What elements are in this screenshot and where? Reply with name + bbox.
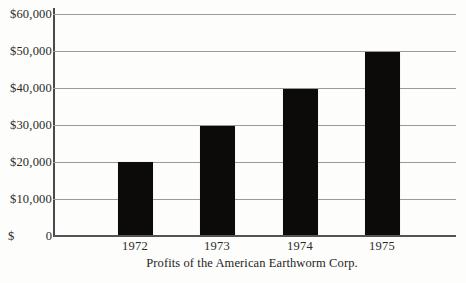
bar-1972 <box>118 162 153 235</box>
chart-caption: Profits of the American Earthworm Corp. <box>0 256 466 271</box>
x-axis-tick-label-1974: 1974 <box>265 239 335 254</box>
y-axis-tick-label-30000: $30,000 <box>0 118 52 133</box>
y-axis-tick-label-40000: $40,000 <box>0 81 52 96</box>
y-axis-tick-label-60000: $60,000 <box>0 7 52 22</box>
chart-caption-text: Profits of the American Earthworm Corp. <box>146 256 358 270</box>
y-axis-tick-label-0: 0 <box>12 229 52 244</box>
plot-area <box>53 14 456 236</box>
x-axis-line <box>53 235 456 237</box>
x-axis-tick-label-1975: 1975 <box>347 239 417 254</box>
x-axis-tick-label-1973: 1973 <box>182 239 252 254</box>
bar-1974 <box>283 89 318 235</box>
y-axis-tick-label-20000: $20,000 <box>0 155 52 170</box>
y-axis-tick-label-50000: $50,000 <box>0 44 52 59</box>
x-axis-tick-label-1972: 1972 <box>100 239 170 254</box>
gridline-60000 <box>53 14 456 15</box>
bar-1975 <box>365 52 400 235</box>
bar-1973 <box>200 126 235 235</box>
y-axis-tick-label-10000: $10,000 <box>0 192 52 207</box>
bar-chart: $60,000 $50,000 $40,000 $30,000 $20,000 … <box>0 0 466 283</box>
